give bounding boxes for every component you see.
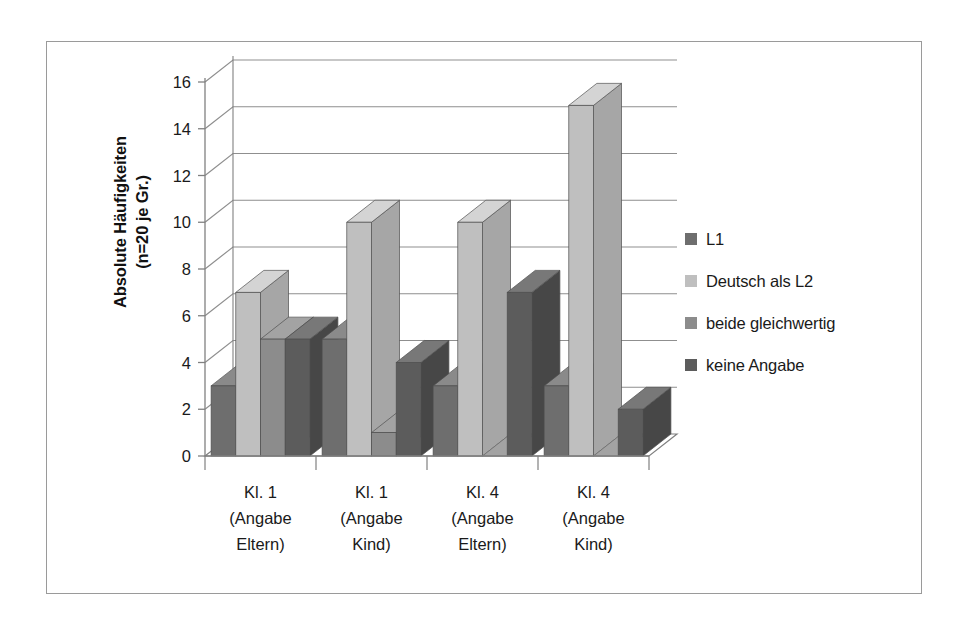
y-tick-label-12: 12 (173, 167, 191, 185)
chart-bars (211, 83, 671, 456)
bar-2-1[interactable] (458, 200, 511, 456)
legend-label-keine-angabe: keine Angabe (706, 356, 804, 375)
bar-front-1-2 (372, 433, 397, 456)
legend-item-l1[interactable]: L1 (685, 218, 910, 260)
category-label-1-line-0: Kl. 1 (355, 483, 388, 501)
legend-swatch-icon-deutsch-als-l2 (685, 275, 697, 287)
category-label-0-line-2: Eltern) (236, 535, 285, 553)
y-tick-label-0: 0 (182, 447, 191, 465)
bar-front-2-0 (433, 386, 458, 456)
legend-swatch-icon-beide-gleichwertig (685, 317, 697, 329)
category-label-1-line-2: Kind) (352, 535, 391, 553)
y-tick-label-10: 10 (173, 213, 191, 231)
chart-figure-frame: 0246810121416Kl. 1(AngabeEltern)Kl. 1(An… (46, 41, 922, 594)
bar-front-1-0 (322, 339, 347, 456)
bar-side-3-1 (594, 83, 622, 456)
bar-front-1-3 (396, 363, 421, 457)
category-label-1-line-1: (Angabe (340, 509, 402, 527)
legend-label-deutsch-als-l2: Deutsch als L2 (706, 272, 813, 291)
bar-front-0-0 (211, 386, 236, 456)
legend-swatch-icon-l1 (685, 233, 697, 245)
y-tick-label-16: 16 (173, 73, 191, 91)
category-label-0-line-0: Kl. 1 (244, 483, 277, 501)
category-label-3-line-2: Kind) (574, 535, 613, 553)
y-tick-label-14: 14 (173, 120, 191, 138)
y-tick-labels: 0246810121416 (173, 73, 191, 465)
y-tick-label-2: 2 (182, 400, 191, 418)
bar-front-2-3 (507, 292, 532, 456)
legend-item-keine-angabe[interactable]: keine Angabe (685, 344, 910, 386)
legend-swatch-icon-keine-angabe (685, 359, 697, 371)
bar-front-0-3 (285, 339, 310, 456)
bar-front-0-2 (261, 339, 286, 456)
bar-3-1[interactable] (569, 83, 622, 456)
legend-label-l1: L1 (706, 230, 724, 249)
y-tick-label-4: 4 (182, 354, 191, 372)
y-tick-label-6: 6 (182, 307, 191, 325)
category-label-2-line-0: Kl. 4 (466, 483, 499, 501)
category-axis (205, 456, 649, 470)
category-labels: Kl. 1(AngabeEltern)Kl. 1(AngabeKind)Kl. … (229, 483, 624, 553)
legend-label-beide-gleichwertig: beide gleichwertig (706, 314, 835, 333)
y-tick-label-8: 8 (182, 260, 191, 278)
gridline-16 (205, 60, 677, 82)
category-label-0-line-1: (Angabe (229, 509, 291, 527)
bar-front-0-1 (236, 292, 261, 456)
chart-legend: L1 Deutsch als L2 beide gleichwertig kei… (685, 218, 910, 386)
bar-front-1-1 (347, 222, 372, 456)
bar-front-3-3 (618, 409, 643, 456)
category-label-2-line-1: (Angabe (451, 509, 513, 527)
bar-front-3-1 (569, 105, 594, 456)
bar-front-2-1 (458, 222, 483, 456)
bar-side-2-1 (483, 200, 511, 456)
legend-item-beide-gleichwertig[interactable]: beide gleichwertig (685, 302, 910, 344)
bar-front-3-0 (544, 386, 569, 456)
legend-item-deutsch-als-l2[interactable]: Deutsch als L2 (685, 260, 910, 302)
category-label-2-line-2: Eltern) (458, 535, 507, 553)
category-label-3-line-0: Kl. 4 (577, 483, 610, 501)
category-label-3-line-1: (Angabe (562, 509, 624, 527)
